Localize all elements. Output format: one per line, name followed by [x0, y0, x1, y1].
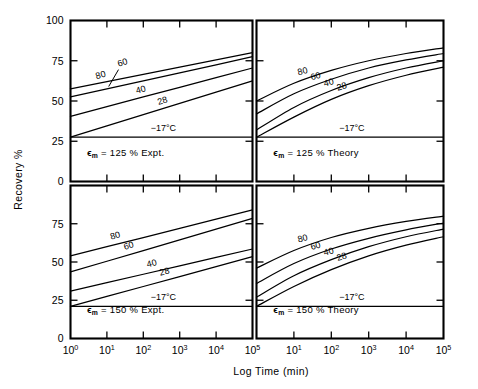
- x-tick-mantissa: 10: [245, 344, 257, 356]
- curve-top-right-80: [257, 48, 444, 101]
- x-tick-mantissa: 10: [99, 344, 111, 356]
- panel-note-top-right: ϵm = 125 % Theory: [273, 147, 359, 160]
- y-tick-label: 50: [52, 256, 64, 268]
- x-tick-exponent: 4: [410, 343, 414, 352]
- x-tick-exponent: 5: [447, 343, 451, 352]
- curve-bottom-right-40: [257, 229, 444, 297]
- x-tick-exponent: 3: [184, 343, 188, 352]
- temperature-label-bottom-right: −17°C: [339, 292, 365, 302]
- y-tick-label: 100: [46, 14, 64, 26]
- x-axis-title: Log Time (min): [233, 365, 309, 377]
- y-tick-label: 75: [52, 55, 64, 67]
- curve-label-top-left-40: 40: [134, 83, 146, 95]
- curve-bottom-right-80: [257, 216, 444, 268]
- curve-label-top-right-28: 28: [335, 80, 347, 92]
- curve-label-bottom-right-40: 40: [322, 245, 334, 257]
- x-tick-label: 102: [323, 343, 339, 356]
- x-tick-exponent: 1: [298, 343, 302, 352]
- x-axis-labels: 100101102103104105101102103104105: [63, 343, 452, 356]
- curve-label-top-left-80: 80: [94, 69, 106, 81]
- y-tick-label: 0: [58, 175, 64, 187]
- curve-label-top-left-28: 28: [156, 94, 169, 106]
- curve-top-right-40: [257, 61, 444, 130]
- curve-label-top-right-60: 60: [310, 70, 322, 82]
- curve-label-bottom-left-80: 80: [109, 229, 122, 241]
- x-tick-mantissa: 10: [63, 344, 75, 356]
- temperature-label-top-right: −17°C: [339, 123, 365, 133]
- panel-note-text: = 125 % Expt.: [98, 147, 164, 158]
- x-tick-exponent: 3: [373, 343, 377, 352]
- panel-note-bottom-right: ϵm = 150 % Theory: [273, 304, 359, 317]
- x-tick-exponent: 2: [335, 343, 339, 352]
- curve-labels: 80604028806040288060402880604028: [94, 56, 347, 277]
- x-tick-exponent: 4: [220, 343, 224, 352]
- recovery-vs-log-time-chart: 80604028806040288060402880604028−17°C−17…: [0, 0, 478, 389]
- panel-note-text: = 150 % Theory: [285, 304, 359, 315]
- curve-bottom-left-80: [71, 210, 253, 256]
- y-tick-label: 50: [52, 95, 64, 107]
- x-tick-label: 103: [172, 343, 188, 356]
- curve-label-bottom-left-28: 28: [158, 265, 170, 277]
- x-tick-label: 103: [361, 343, 377, 356]
- x-tick-mantissa: 10: [286, 344, 298, 356]
- x-tick-mantissa: 10: [361, 344, 373, 356]
- curve-label-bottom-right-28: 28: [335, 250, 348, 262]
- curve-label-bottom-left-40: 40: [146, 257, 158, 269]
- curve-label-bottom-right-80: 80: [296, 232, 308, 244]
- x-tick-exponent: 0: [74, 343, 78, 352]
- x-tick-label: 104: [398, 343, 414, 356]
- panel-note-top-left: ϵm = 125 % Expt.: [87, 147, 164, 160]
- curve-label-top-left-60: 60: [116, 56, 128, 68]
- x-tick-mantissa: 10: [436, 344, 448, 356]
- x-tick-mantissa: 10: [172, 344, 184, 356]
- x-tick-exponent: 1: [111, 343, 115, 352]
- x-tick-mantissa: 10: [135, 344, 147, 356]
- temperature-label-top-left: −17°C: [151, 123, 177, 133]
- x-tick-mantissa: 10: [398, 344, 410, 356]
- x-tick-exponent: 5: [256, 343, 260, 352]
- curve-label-top-right-80: 80: [297, 65, 309, 77]
- x-tick-label: 101: [286, 343, 302, 356]
- panel-note-bottom-left: ϵm = 150 % Expt.: [87, 304, 164, 317]
- panel-note-text: = 150 % Expt.: [98, 304, 164, 315]
- x-tick-label: 100: [63, 343, 79, 356]
- y-tick-label: 25: [52, 294, 64, 306]
- y-tick-label: 75: [52, 218, 64, 230]
- panel-note-text: = 125 % Theory: [285, 147, 359, 158]
- curve-label-leader-60: [109, 70, 119, 87]
- x-tick-label: 102: [135, 343, 151, 356]
- y-tick-label: 0: [58, 332, 64, 344]
- x-tick-label: 101: [99, 343, 115, 356]
- y-axis-title: Recovery %: [12, 149, 24, 210]
- x-tick-label: 105: [436, 343, 452, 356]
- x-tick-mantissa: 10: [323, 344, 335, 356]
- x-tick-label: 104: [208, 343, 224, 356]
- x-tick-exponent: 2: [147, 343, 151, 352]
- y-tick-label: 25: [52, 135, 64, 147]
- y-axis-labels: 10075502507550250: [46, 14, 64, 344]
- x-tick-label: 105: [245, 343, 261, 356]
- temperature-label-bottom-left: −17°C: [151, 292, 177, 302]
- x-tick-mantissa: 10: [208, 344, 220, 356]
- figure-container: 80604028806040288060402880604028−17°C−17…: [0, 0, 478, 389]
- curve-label-bottom-left-60: 60: [122, 239, 135, 251]
